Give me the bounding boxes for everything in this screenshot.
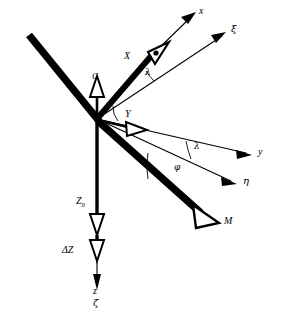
force-X-arrowhead (148, 42, 169, 64)
force-Z0-subscript: 0 (82, 201, 85, 208)
axis-x-arrowhead (181, 12, 196, 24)
force-X-label: X (124, 51, 130, 61)
angle-phi-label: φ (174, 163, 180, 172)
ray-arrowheads (93, 12, 252, 290)
technical-diagram: x ξ y η z ζ X Y Z0 ΔZ C M λ λ φ (0, 0, 286, 320)
force-deltaZ-arrowhead (90, 240, 104, 261)
diagram-canvas (0, 0, 286, 320)
axis-xi-label: ξ (231, 24, 237, 34)
thick-bar-upper-left (29, 35, 99, 121)
axis-eta-label: η (243, 176, 249, 186)
force-Z0-label: Z0 (76, 196, 85, 209)
axis-z-label: z (93, 286, 97, 296)
force-Y-arrowhead (126, 122, 147, 136)
point-M-label: M (224, 216, 232, 226)
axis-eta-arrowhead (221, 177, 237, 186)
force-M-arrowhead (193, 205, 219, 228)
axis-x-label: x (199, 6, 203, 16)
axis-eta-line (97, 119, 231, 181)
angle-lambda-upper-label: λ (145, 68, 151, 77)
angle-lambda-lower-label: λ (194, 142, 200, 151)
force-M-shaft (98, 121, 201, 213)
axis-zeta-label: ζ (93, 298, 98, 308)
angle-lambda-lower-arc (186, 141, 191, 159)
force-deltaZ-label: ΔZ (62, 245, 73, 255)
point-C-label: C (92, 72, 98, 81)
axis-y-label: y (258, 147, 262, 157)
force-Z0-arrowhead (90, 214, 104, 235)
force-Y-label: Y (125, 109, 131, 119)
axis-y-arrowhead (236, 150, 252, 159)
